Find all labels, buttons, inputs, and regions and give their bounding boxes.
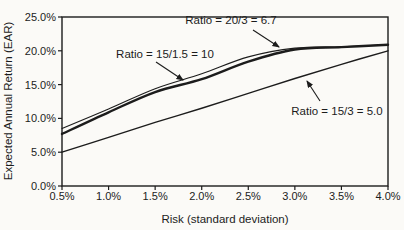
x-tick-label: 4.0% xyxy=(375,190,400,202)
annotation-ratio-15-3: Ratio = 15/3 = 5.0 xyxy=(291,105,382,117)
y-tick-label: 15.0% xyxy=(25,79,56,91)
annotation-arrow-ratio-15-1-5 xyxy=(156,62,183,80)
series-line-2 xyxy=(62,51,388,152)
y-tick-label: 0.0% xyxy=(31,180,56,192)
x-tick-label: 1.0% xyxy=(96,190,121,202)
annotation-ratio-20-3: Ratio = 20/3 = 6.7 xyxy=(185,14,276,26)
x-tick-label: 2.5% xyxy=(236,190,261,202)
y-tick-label: 5.0% xyxy=(31,146,56,158)
annotation-arrow-ratio-15-3 xyxy=(307,81,320,101)
x-axis-title: Risk (standard deviation) xyxy=(161,213,288,225)
line-chart: 0.5%1.0%1.5%2.0%2.5%3.0%3.5%4.0%0.0%5.0%… xyxy=(0,0,404,230)
annotation-ratio-15-1-5: Ratio = 15/1.5 = 10 xyxy=(116,48,214,60)
y-tick-label: 25.0% xyxy=(25,11,56,23)
y-tick-label: 20.0% xyxy=(25,45,56,57)
annotation-arrow-ratio-20-3 xyxy=(253,30,279,47)
y-axis-title: Expected Annual Return (EAR) xyxy=(2,22,14,181)
series-line-1 xyxy=(62,45,388,134)
x-tick-label: 3.0% xyxy=(282,190,307,202)
x-tick-label: 2.0% xyxy=(189,190,214,202)
y-tick-label: 10.0% xyxy=(25,112,56,124)
x-tick-label: 3.5% xyxy=(329,190,354,202)
risk-return-chart-figure: 0.5%1.0%1.5%2.0%2.5%3.0%3.5%4.0%0.0%5.0%… xyxy=(0,0,404,230)
x-tick-label: 1.5% xyxy=(143,190,168,202)
